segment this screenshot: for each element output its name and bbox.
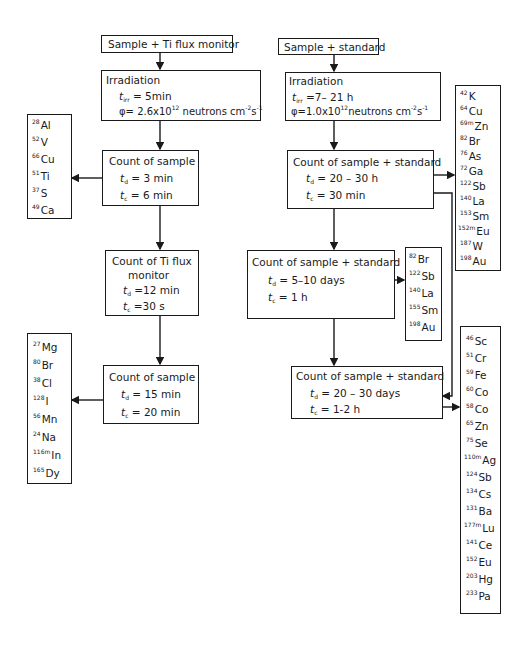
nuclide-cs-134: 134Cs <box>466 488 491 500</box>
irradiation-title: Irradiation <box>289 76 343 87</box>
nuclide-br-80: 80Br <box>33 359 53 371</box>
nuclide-list-right-top: 42K 64Cu 69mZn 82Br 76As 72Ga 122Sb 140L… <box>455 85 501 271</box>
irradiation-time: tirr = 5min <box>119 91 172 103</box>
nuclide-zn-69m: 69mZn <box>460 120 488 132</box>
nuclide-k-42: 42K <box>460 90 476 102</box>
nuclide-se-75: 75Se <box>466 437 488 449</box>
nuclide-sb-124: 124Sb <box>466 471 492 483</box>
count-time: tc = 20 min <box>121 407 180 419</box>
nuclide-au-198: 198Au <box>409 321 435 333</box>
start-label: Sample + standard <box>284 42 385 53</box>
nuclide-co-60: 60Co <box>466 386 488 398</box>
nuclide-list-right-bottom: 46Sc 51Cr 59Fe 60Co 58Co 65Zn 75Se 110mA… <box>460 326 501 614</box>
nuclide-sc-46: 46Sc <box>466 335 487 347</box>
nuclide-ga-72: 72Ga <box>460 165 483 177</box>
count-title: Count of sample <box>109 156 195 167</box>
nuclide-sm-155: 155Sm <box>409 304 438 316</box>
nuclide-sm-153: 153Sm <box>460 210 489 222</box>
nuclide-mg-27: 27Mg <box>33 341 57 353</box>
decay-time: td = 5–10 days <box>268 275 345 287</box>
nuclide-list-right-mid: 82Br 122Sb 140La 155Sm 198Au <box>405 247 442 341</box>
count-time: tc =30 s <box>123 301 165 313</box>
count-time: tc = 1 h <box>268 292 308 304</box>
nuclide-list-left-2: 27Mg 80Br 38Cl 128I 56Mn 24Na 116mIn 165… <box>27 333 72 484</box>
nuclide-al-28: 28Al <box>32 119 51 131</box>
irradiation-title: Irradiation <box>106 75 160 86</box>
nuclide-i-128: 128I <box>33 395 49 407</box>
start-box-sample-standard: Sample + standard <box>278 38 379 55</box>
count-box-right-1: Count of sample + standard td = 20 – 30 … <box>287 150 434 209</box>
nuclide-ag-110m: 110mAg <box>464 454 496 466</box>
nuclide-cr-51: 51Cr <box>466 352 486 364</box>
nuclide-list-left-1: 28Al 52V 66Cu 51Ti 37S 49Ca <box>27 114 72 219</box>
count-time: tc = 30 min <box>306 190 365 202</box>
nuclide-eu-152: 152Eu <box>466 556 492 568</box>
nuclide-ti-51: 51Ti <box>32 170 50 182</box>
nuclide-sb-122: 122Sb <box>409 270 435 282</box>
count-time: tc = 1-2 h <box>310 404 360 416</box>
nuclide-hg-203: 203Hg <box>466 573 493 585</box>
nuclide-ba-131: 131Ba <box>466 505 492 517</box>
count-box-left-1: Count of sample td = 3 min tc = 6 min <box>102 150 199 206</box>
nuclide-br-82: 82Br <box>460 135 480 147</box>
decay-time: td = 15 min <box>121 389 181 401</box>
nuclide-eu-152m: 152mEu <box>458 225 490 237</box>
nuclide-in-116m: 116mIn <box>33 449 61 461</box>
decay-time: td = 20 – 30 h <box>306 173 378 185</box>
nuclide-cu-64: 64Cu <box>460 105 483 117</box>
nuclide-zn-65: 65Zn <box>466 420 489 432</box>
nuclide-ca-49: 49Ca <box>32 204 54 216</box>
nuclide-w-187: 187W <box>460 240 483 252</box>
irradiation-box-right: Irradiation tirr =7– 21 h φ=1.0x1012neut… <box>285 72 441 121</box>
decay-time: td =12 min <box>123 285 180 297</box>
count-box-right-3: Count of sample + standard td = 20 – 30 … <box>291 366 443 419</box>
count-title: Count of sample + standard <box>252 257 400 268</box>
count-box-right-2: Count of sample + standard td = 5–10 day… <box>247 250 395 319</box>
nuclide-au-198: 198Au <box>460 255 486 267</box>
nuclide-pa-233: 233Pa <box>466 590 491 602</box>
nuclide-fe-59: 59Fe <box>466 369 487 381</box>
nuclide-as-76: 76As <box>460 150 481 162</box>
decay-time: td = 20 – 30 days <box>310 388 400 400</box>
start-label: Sample + Ti flux monitor <box>108 39 239 50</box>
count-title: Count of sample + standard <box>293 157 441 168</box>
nuclide-br-82: 82Br <box>409 253 429 265</box>
decay-time: td = 3 min <box>120 173 173 185</box>
nuclide-co-58: 58Co <box>466 403 488 415</box>
irradiation-box-left: Irradiation tirr = 5min φ= 2.6x1012 neut… <box>101 70 261 121</box>
start-box-sample-ti-flux-monitor: Sample + Ti flux monitor <box>101 35 233 53</box>
nuclide-cl-38: 38Cl <box>33 377 52 389</box>
nuclide-mn-56: 56Mn <box>33 413 57 425</box>
neutron-flux: φ=1.0x1012neutrons cm-2s-1 <box>291 105 428 117</box>
nuclide-lu-177m: 177mLu <box>464 522 495 534</box>
nuclide-v-52: 52V <box>32 136 48 148</box>
nuclide-la-140: 140La <box>409 287 434 299</box>
count-title: Count of sample + standard <box>296 371 444 382</box>
count-title: Count of sample <box>109 372 195 383</box>
count-box-left-3: Count of sample td = 15 min tc = 20 min <box>103 365 199 424</box>
nuclide-sb-122: 122Sb <box>460 180 486 192</box>
count-title-line2: monitor <box>128 270 169 281</box>
count-box-ti-flux-monitor: Count of Ti flux monitor td =12 min tc =… <box>105 250 199 316</box>
nuclide-s-37: 37S <box>32 187 47 199</box>
nuclide-cu-66: 66Cu <box>32 153 55 165</box>
nuclide-dy-165: 165Dy <box>33 467 60 479</box>
count-title-line1: Count of Ti flux <box>112 256 192 267</box>
nuclide-ce-141: 141Ce <box>466 539 492 551</box>
neutron-flux: φ= 2.6x1012 neutrons cm-2s-1 <box>119 105 262 117</box>
count-time: tc = 6 min <box>120 190 173 202</box>
nuclide-na-24: 24Na <box>33 431 56 443</box>
irradiation-time: tirr =7– 21 h <box>292 92 353 104</box>
connector-lines <box>0 0 525 648</box>
nuclide-la-140: 140La <box>460 195 485 207</box>
